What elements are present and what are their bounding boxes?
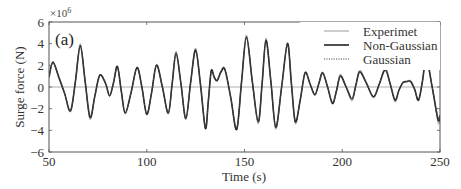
legend-label-non-gaussian: Non-Gaussian	[363, 38, 438, 53]
x-tick-label: 200	[333, 154, 353, 169]
y-tick-label: −6	[30, 145, 44, 160]
surge-force-chart: 50100150200250−6−4−20246 (a) ×106 Time (…	[0, 0, 461, 189]
legend-label-experiment: Experimet	[363, 24, 418, 39]
y-axis-title: Surge force (N)	[12, 46, 27, 127]
y-tick-label: −4	[30, 123, 44, 138]
x-axis-title: Time (s)	[222, 169, 266, 184]
x-tick-label: 50	[43, 154, 56, 169]
y-tick-label: 0	[38, 80, 45, 95]
y-multiplier-exponent: 6	[67, 6, 71, 15]
legend: Experimet Non-Gaussian Gaussian	[300, 22, 440, 70]
y-tick-label: −2	[30, 101, 44, 116]
y-tick-label: 4	[38, 36, 45, 51]
x-tick-label: 250	[430, 154, 450, 169]
legend-label-gaussian: Gaussian	[363, 52, 411, 67]
x-tick-label: 100	[137, 154, 157, 169]
y-tick-label: 2	[38, 58, 45, 73]
y-tick-label: 6	[38, 15, 45, 30]
panel-label: (a)	[55, 30, 74, 49]
x-tick-label: 150	[235, 154, 255, 169]
y-multiplier-base: ×10	[50, 7, 68, 19]
